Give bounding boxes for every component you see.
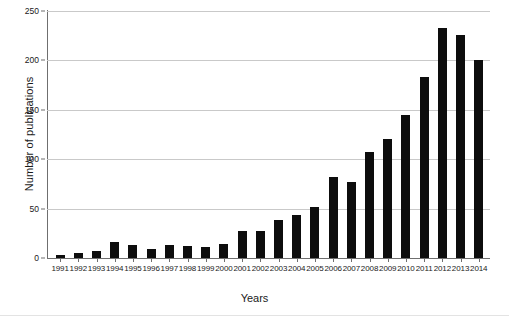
- bar-slot: [51, 11, 69, 258]
- bar: [329, 177, 338, 258]
- x-tick-label: 1992: [70, 264, 87, 273]
- y-tick-label: 150: [25, 105, 39, 115]
- x-tick-label: 2003: [270, 264, 287, 273]
- x-tick-mark: [406, 259, 407, 262]
- x-tick-label: 2008: [361, 264, 378, 273]
- bar-slot: [160, 11, 178, 258]
- x-tick-label: 1994: [106, 264, 123, 273]
- x-tick-slot: 2009: [379, 259, 397, 283]
- x-tick-label: 1995: [124, 264, 141, 273]
- x-tick-slot: 1997: [160, 259, 178, 283]
- bar: [183, 246, 192, 258]
- bar: [56, 255, 65, 258]
- x-tick-mark: [115, 259, 116, 262]
- x-tick-mark: [351, 259, 352, 262]
- x-tick-slot: 1994: [106, 259, 124, 283]
- bar: [256, 231, 265, 258]
- x-tick-slot: 2000: [215, 259, 233, 283]
- bar: [92, 251, 101, 258]
- x-tick-mark: [169, 259, 170, 262]
- y-tick-mark: [41, 60, 45, 61]
- bar-slot: [379, 11, 397, 258]
- x-tick-slot: 1998: [178, 259, 196, 283]
- x-tick-label: 2013: [452, 264, 469, 273]
- bar-slot: [433, 11, 451, 258]
- x-tick-label: 2011: [416, 264, 433, 273]
- x-tick-slot: 2012: [433, 259, 451, 283]
- bar-slot: [251, 11, 269, 258]
- plot-area: [47, 11, 490, 258]
- x-tick-mark: [424, 259, 425, 262]
- bar-slot: [288, 11, 306, 258]
- x-tick-slot: 2008: [360, 259, 378, 283]
- x-tick-mark: [279, 259, 280, 262]
- y-axis-tick-labels: 050100150200250: [0, 0, 47, 270]
- x-tick-mark: [206, 259, 207, 262]
- bar: [438, 28, 447, 258]
- y-tick-mark: [41, 109, 45, 110]
- x-tick-label: 2007: [343, 264, 360, 273]
- bar-slot: [397, 11, 415, 258]
- y-tick-label: 50: [30, 204, 39, 214]
- bar: [238, 231, 247, 258]
- x-tick-mark: [224, 259, 225, 262]
- bar-slot: [451, 11, 469, 258]
- x-tick-label: 1996: [142, 264, 159, 273]
- x-tick-slot: 2006: [324, 259, 342, 283]
- x-tick-mark: [315, 259, 316, 262]
- x-tick-label: 1999: [197, 264, 214, 273]
- bar: [74, 253, 83, 258]
- bar-slot: [69, 11, 87, 258]
- x-tick-mark: [442, 259, 443, 262]
- x-tick-label: 2004: [288, 264, 305, 273]
- publications-bar-chart: Number of publications 050100150200250 1…: [0, 0, 509, 316]
- y-tick-mark: [41, 11, 45, 12]
- x-tick-slot: 2010: [397, 259, 415, 283]
- x-tick-slot: 2001: [233, 259, 251, 283]
- bar-slot: [470, 11, 488, 258]
- x-tick-mark: [60, 259, 61, 262]
- bars-container: [47, 11, 490, 258]
- x-tick-mark: [370, 259, 371, 262]
- y-tick-label: 250: [25, 6, 39, 16]
- x-tick-label: 2012: [434, 264, 451, 273]
- bar: [474, 60, 483, 258]
- x-tick-label: 1993: [88, 264, 105, 273]
- bar-slot: [360, 11, 378, 258]
- bar: [147, 249, 156, 258]
- bar-slot: [269, 11, 287, 258]
- bar: [420, 77, 429, 258]
- x-tick-mark: [479, 259, 480, 262]
- x-tick-label: 2001: [233, 264, 250, 273]
- bar: [401, 115, 410, 258]
- x-tick-label: 2000: [215, 264, 232, 273]
- x-axis-tick-labels: 1991199219931994199519961997199819992000…: [47, 259, 490, 283]
- x-tick-label: 2010: [397, 264, 414, 273]
- x-tick-label: 1997: [161, 264, 178, 273]
- bar-slot: [233, 11, 251, 258]
- bar: [165, 245, 174, 258]
- bar-slot: [306, 11, 324, 258]
- x-tick-slot: 1999: [197, 259, 215, 283]
- y-tick-mark: [41, 258, 45, 259]
- y-tick-mark: [41, 159, 45, 160]
- x-tick-mark: [133, 259, 134, 262]
- x-tick-label: 2002: [252, 264, 269, 273]
- x-tick-slot: 1991: [51, 259, 69, 283]
- bar-slot: [124, 11, 142, 258]
- x-tick-slot: 1993: [87, 259, 105, 283]
- bar: [456, 35, 465, 258]
- x-tick-slot: 2014: [470, 259, 488, 283]
- bar: [383, 139, 392, 258]
- x-tick-slot: 1992: [69, 259, 87, 283]
- x-tick-label: 1998: [179, 264, 196, 273]
- bar-slot: [87, 11, 105, 258]
- x-tick-slot: 2005: [306, 259, 324, 283]
- x-tick-mark: [242, 259, 243, 262]
- x-tick-slot: 2011: [415, 259, 433, 283]
- x-tick-label: 2006: [324, 264, 341, 273]
- x-tick-label: 2005: [306, 264, 323, 273]
- bar-slot: [106, 11, 124, 258]
- bar: [201, 247, 210, 258]
- bar: [110, 242, 119, 258]
